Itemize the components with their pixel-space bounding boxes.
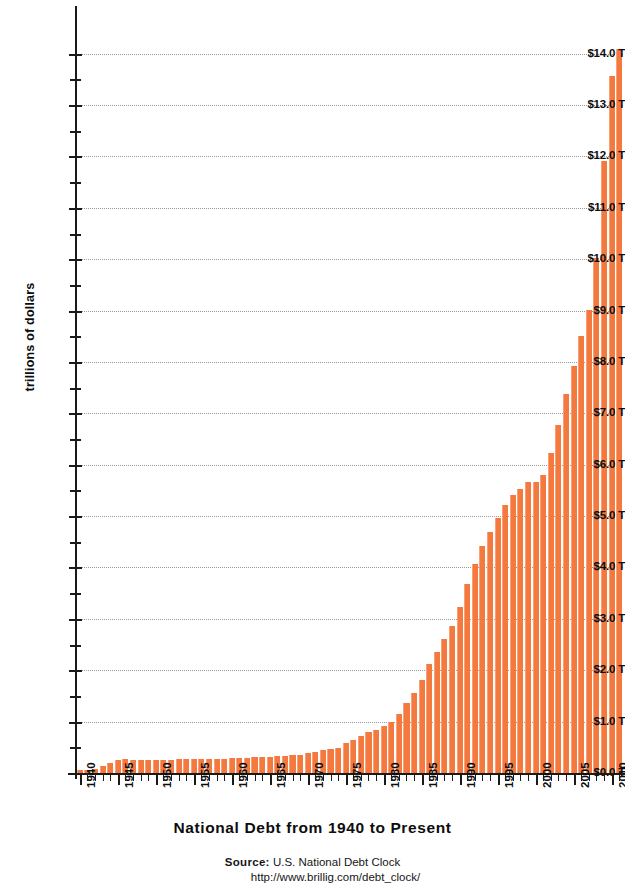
x-axis-minor-tick: [437, 774, 438, 781]
x-axis-minor-tick: [209, 774, 210, 781]
chart-title: National Debt from 1940 to Present: [0, 819, 625, 837]
x-axis-major-tick: [156, 774, 158, 785]
bar: [107, 763, 113, 773]
y-axis-minor-tick: [70, 747, 81, 749]
y-axis-minor-tick: [70, 542, 81, 544]
x-axis-minor-tick: [315, 774, 316, 781]
x-axis-major-tick: [498, 774, 500, 785]
x-axis-minor-tick: [528, 774, 529, 781]
bar: [289, 755, 295, 773]
x-axis-minor-tick: [429, 774, 430, 781]
x-axis-minor-tick: [604, 774, 605, 781]
source-name-line: Source: U.S. National Debt Clock: [0, 855, 625, 870]
bar: [153, 760, 159, 773]
x-axis-major-tick: [346, 774, 348, 785]
x-axis-major-tick: [460, 774, 462, 785]
source-name: U.S. National Debt Clock: [273, 856, 400, 868]
x-axis-minor-tick: [505, 774, 506, 781]
bar: [297, 755, 303, 773]
x-axis-major-tick: [194, 774, 196, 785]
y-axis-tick: [69, 413, 82, 415]
y-axis-minor-tick: [70, 593, 81, 595]
x-axis-minor-tick: [331, 774, 332, 781]
x-axis-minor-tick: [406, 774, 407, 781]
y-axis-tick-label: $14.0 T: [563, 47, 625, 59]
x-axis-major-tick: [232, 774, 234, 785]
y-axis-tick: [69, 619, 82, 621]
x-axis-minor-tick: [619, 774, 620, 781]
bar: [510, 495, 516, 773]
x-axis-minor-tick: [141, 774, 142, 781]
x-axis-minor-tick: [201, 774, 202, 781]
bar: [578, 336, 584, 773]
y-axis-minor-tick: [70, 285, 81, 287]
national-debt-chart: trillions of dollars $0.0 T$1.0 T$2.0 T$…: [0, 0, 625, 891]
y-axis-tick: [69, 722, 82, 724]
x-axis-minor-tick: [179, 774, 180, 781]
x-axis-minor-tick: [87, 774, 88, 781]
bar: [419, 680, 425, 774]
bar: [183, 759, 189, 773]
x-axis-major-tick: [308, 774, 310, 785]
bar: [449, 626, 455, 773]
source-note: Source: U.S. National Debt Clock http://…: [0, 855, 625, 885]
y-axis-tick: [69, 156, 82, 158]
y-axis-tick: [69, 670, 82, 672]
x-axis-minor-tick: [239, 774, 240, 781]
y-axis-tick-label: $2.0 T: [563, 663, 625, 675]
x-axis-minor-tick: [452, 774, 453, 781]
x-axis-tick-label: 2010: [617, 762, 625, 788]
y-axis-tick: [69, 516, 82, 518]
x-axis-minor-tick: [513, 774, 514, 781]
y-axis-tick: [69, 54, 82, 56]
y-axis-minor-tick: [70, 234, 81, 236]
source-keyword: Source:: [225, 856, 270, 868]
bar: [586, 310, 592, 773]
x-axis-major-tick: [80, 774, 82, 785]
bar: [517, 489, 523, 773]
y-axis-tick: [69, 259, 82, 261]
bar: [373, 730, 379, 773]
y-axis-tick: [69, 311, 82, 313]
x-axis-major-tick: [574, 774, 576, 785]
bar: [229, 758, 235, 773]
bars-group: [76, 28, 623, 773]
y-axis-tick: [69, 105, 82, 107]
bar: [487, 532, 493, 773]
y-axis-minor-tick: [70, 388, 81, 390]
x-axis-minor-tick: [133, 774, 134, 781]
y-axis-title: trillions of dollars: [23, 237, 37, 437]
x-axis-minor-tick: [95, 774, 96, 781]
bar: [327, 749, 333, 773]
x-axis-minor-tick: [293, 774, 294, 781]
x-axis-minor-tick: [262, 774, 263, 781]
y-axis-tick-label: $1.0 T: [563, 715, 625, 727]
bar: [221, 759, 227, 773]
bar: [540, 475, 546, 774]
bar: [502, 505, 508, 773]
x-axis-minor-tick: [255, 774, 256, 781]
y-axis-minor-tick: [70, 645, 81, 647]
bar: [479, 546, 485, 773]
bar: [145, 760, 151, 773]
bar: [365, 732, 371, 773]
bar: [138, 760, 144, 773]
x-axis-minor-tick: [376, 774, 377, 781]
bar: [533, 482, 539, 773]
plot-area: [76, 28, 623, 773]
y-axis-minor-tick: [70, 696, 81, 698]
y-axis-tick: [69, 362, 82, 364]
y-axis-line: [75, 6, 77, 779]
source-url: http://www.brillig.com/debt_clock/: [0, 870, 625, 885]
x-axis-minor-tick: [277, 774, 278, 781]
x-axis-minor-tick: [110, 774, 111, 781]
x-axis-minor-tick: [490, 774, 491, 781]
x-axis-minor-tick: [338, 774, 339, 781]
y-axis-tick-label: $13.0 T: [563, 98, 625, 110]
x-axis-minor-tick: [361, 774, 362, 781]
x-axis-minor-tick: [224, 774, 225, 781]
bar: [441, 639, 447, 773]
x-axis-minor-tick: [444, 774, 445, 781]
bar: [472, 564, 478, 773]
bar: [100, 766, 106, 773]
